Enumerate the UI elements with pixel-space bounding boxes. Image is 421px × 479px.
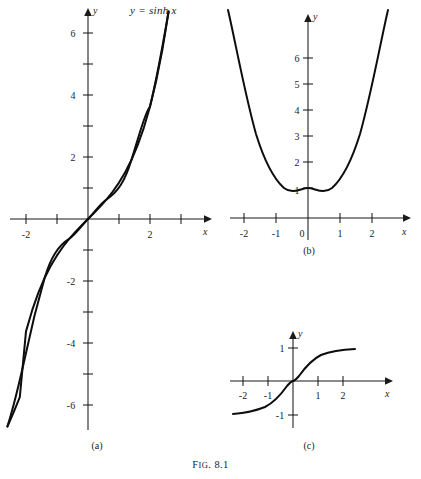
sinh-y-axis-arrow xyxy=(84,8,92,16)
cosh-ylabel-3: 3 xyxy=(295,131,300,142)
sinh-ylabel--6: -6 xyxy=(67,400,75,411)
tanh-x-axis-arrow xyxy=(385,377,393,385)
figure-caption: FIG. 8.1 xyxy=(0,459,421,470)
sub-label-c: (c) xyxy=(294,440,324,451)
tanh-ylabel-1: 1 xyxy=(280,343,285,354)
cosh-xlabel-2: 2 xyxy=(370,228,375,239)
tanh-xlabel--2: -2 xyxy=(239,390,247,401)
plot-tanh: -2 -1 1 2 1 -1 x y y = tanh x xyxy=(225,325,421,435)
cosh-ylabel-6: 6 xyxy=(295,53,300,64)
cosh-ylabel-5: 5 xyxy=(295,79,300,90)
sinh-ylabel-4: 4 xyxy=(71,90,76,101)
sub-label-a: (a) xyxy=(82,440,112,451)
plot-cosh: -2 -1 0 1 2 1 2 3 4 5 6 x y y = cosh x xyxy=(225,0,421,245)
sinh-x-axis-arrow xyxy=(204,215,212,223)
cosh-xlabel-0: 0 xyxy=(300,228,305,239)
cosh-xlabel--2: -2 xyxy=(240,228,248,239)
tanh-ylabel--1: -1 xyxy=(276,410,284,421)
sinh-ylabel--4: -4 xyxy=(67,338,75,349)
sinh-svg: -2 2 6 4 2 -2 -4 -6 x y xyxy=(0,0,225,440)
tanh-xlabel-2: 2 xyxy=(341,390,346,401)
cosh-svg: -2 -1 0 1 2 1 2 3 4 5 6 x y xyxy=(225,0,421,245)
cosh-x-axis-name: x xyxy=(401,226,407,237)
cosh-y-axis-name: y xyxy=(312,11,318,22)
cosh-ylabel-2: 2 xyxy=(295,157,300,168)
tanh-x-axis-name: x xyxy=(384,388,390,399)
cosh-xlabel--1: -1 xyxy=(272,228,280,239)
cosh-x-axis-arrow xyxy=(403,214,411,222)
tanh-svg: -2 -1 1 2 1 -1 x y xyxy=(225,325,421,435)
sinh-x-axis-name: x xyxy=(202,226,208,237)
tanh-y-axis-name: y xyxy=(297,328,303,339)
tanh-xlabel--1: -1 xyxy=(264,390,272,401)
tanh-y-axis-arrow xyxy=(289,331,297,339)
sinh-y-axis-name: y xyxy=(92,5,98,16)
sinh-ylabel-2: 2 xyxy=(71,152,76,163)
figure-caption-number: . 8.1 xyxy=(208,459,228,470)
sinh-xlabel-2: 2 xyxy=(148,229,153,240)
cosh-ylabel-4: 4 xyxy=(295,105,300,116)
sinh-xlabel--2: -2 xyxy=(22,229,30,240)
sub-label-b: (b) xyxy=(294,245,324,256)
cosh-y-axis-arrow xyxy=(304,14,312,22)
sinh-ylabel-6: 6 xyxy=(71,28,76,39)
plot-sinh: -2 2 6 4 2 -2 -4 -6 x y y = sinh x xyxy=(0,0,225,440)
sinh-ylabel--2: -2 xyxy=(67,276,75,287)
tanh-xlabel-1: 1 xyxy=(316,390,321,401)
figure-caption-smallcaps: IG xyxy=(199,460,209,470)
sinh-curve-label: y = sinh x xyxy=(130,4,177,16)
figure-page: -2 2 6 4 2 -2 -4 -6 x y y = sinh x xyxy=(0,0,421,479)
cosh-xlabel-1: 1 xyxy=(338,228,343,239)
